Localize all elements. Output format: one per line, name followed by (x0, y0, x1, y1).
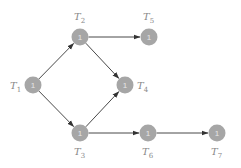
node-weight: 1 (215, 129, 220, 138)
node-weight: 1 (78, 33, 83, 42)
labels-group: T1T2T3T4T5T6T7 (10, 11, 222, 160)
node-t2: 1 (72, 29, 89, 46)
node-label-t5: T5 (143, 11, 154, 25)
node-t4: 1 (117, 77, 134, 94)
node-label-t3: T3 (74, 146, 85, 160)
node-label-t2: T2 (74, 11, 85, 25)
node-weight: 1 (147, 33, 152, 42)
node-label-t4: T4 (137, 80, 149, 94)
node-t5: 1 (141, 29, 158, 46)
node-weight: 1 (31, 81, 36, 90)
node-weight: 1 (146, 129, 151, 138)
node-t7: 1 (209, 125, 226, 142)
task-graph: 1111111 T1T2T3T4T5T6T7 (0, 0, 241, 168)
node-t6: 1 (140, 125, 157, 142)
node-label-t7: T7 (211, 146, 222, 160)
edge-t2-t4 (86, 43, 119, 78)
node-label-t1: T1 (10, 80, 21, 94)
nodes-group: 1111111 (25, 29, 226, 142)
node-label-t6: T6 (142, 146, 154, 160)
node-weight: 1 (78, 129, 83, 138)
edge-t1-t2 (39, 43, 74, 78)
edge-t3-t4 (86, 92, 119, 127)
node-weight: 1 (123, 81, 128, 90)
node-t3: 1 (72, 125, 89, 142)
edge-t1-t3 (39, 91, 74, 126)
node-t1: 1 (25, 77, 42, 94)
